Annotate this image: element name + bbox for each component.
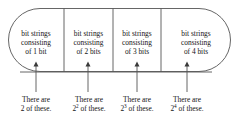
arrowhead-1 bbox=[34, 62, 39, 67]
cell-3-line-2: consisting bbox=[113, 38, 161, 47]
cell-1-line-2: consisting bbox=[8, 38, 64, 47]
cell-bit-strings-1: bit strings consisting of 1 bit bbox=[8, 29, 64, 57]
cell-2-line-1: bit strings bbox=[64, 29, 113, 38]
caption-4-tail: of these. bbox=[177, 104, 204, 113]
cell-2-line-2: consisting bbox=[64, 38, 113, 47]
arrowhead-2 bbox=[86, 62, 91, 67]
cell-bit-strings-2: bit strings consisting of 2 bits bbox=[64, 29, 113, 57]
caption-4-line-1: There are bbox=[155, 95, 219, 104]
arrowhead-3 bbox=[135, 62, 140, 67]
cell-2-line-3: of 2 bits bbox=[64, 47, 113, 56]
cell-3-line-1: bit strings bbox=[113, 29, 161, 38]
cell-4-line-2: consisting bbox=[161, 38, 231, 47]
cell-3-line-3: of 3 bits bbox=[113, 47, 161, 56]
bit-strings-figure: bit strings consisting of 1 bit bit stri… bbox=[0, 0, 239, 122]
caption-1-tail: of these. bbox=[24, 104, 51, 113]
cell-bit-strings-3: bit strings consisting of 3 bits bbox=[113, 29, 161, 57]
cell-bit-strings-4: bit strings consisting of 4 bits bbox=[161, 29, 231, 57]
caption-4-line-2: 24 of these. bbox=[155, 104, 219, 113]
caption-3-tail: of these. bbox=[127, 104, 154, 113]
cell-1-line-3: of 1 bit bbox=[8, 47, 64, 56]
cell-1-line-1: bit strings bbox=[8, 29, 64, 38]
caption-count-4: There are 24 of these. bbox=[155, 95, 219, 114]
caption-2-tail: of these. bbox=[79, 104, 106, 113]
cell-4-line-3: of 4 bits bbox=[161, 47, 231, 56]
arrowhead-4 bbox=[185, 62, 190, 67]
cell-4-line-1: bit strings bbox=[161, 29, 231, 38]
